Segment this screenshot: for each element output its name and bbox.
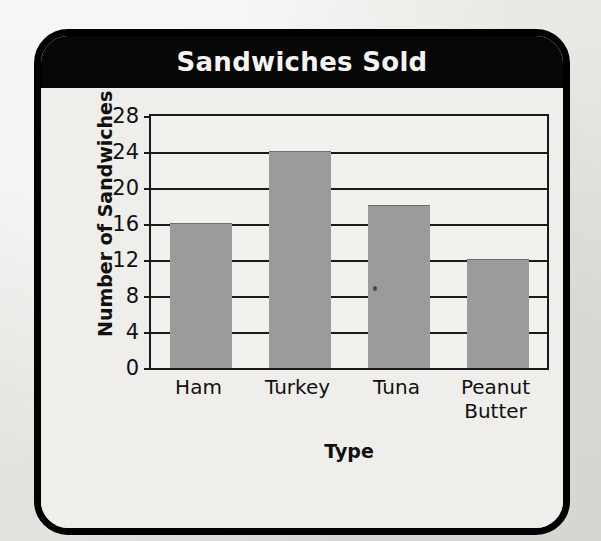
bar	[368, 205, 430, 368]
x-axis-label-line: Ham	[149, 376, 248, 400]
x-axis-label: Tuna	[347, 376, 446, 400]
y-tick-mark	[144, 260, 151, 262]
bar	[467, 259, 529, 368]
x-axis-label: Turkey	[248, 376, 347, 400]
chart-card: Sandwiches Sold Number of Sandwiches 048…	[34, 29, 570, 535]
bars-layer	[151, 116, 547, 368]
y-tick-label: 8	[126, 284, 139, 308]
x-axis-label-line: Peanut	[446, 376, 545, 400]
y-tick-mark	[144, 116, 151, 118]
bar	[170, 223, 232, 368]
x-axis-category-labels: HamTurkeyTunaPeanutButter	[149, 376, 549, 434]
print-speck	[373, 286, 377, 291]
x-axis-label: PeanutButter	[446, 376, 545, 423]
y-tick-mark	[144, 224, 151, 226]
y-tick-mark	[144, 368, 151, 370]
y-tick-label: 4	[126, 320, 139, 344]
x-axis-title: Type	[149, 440, 549, 462]
y-tick-mark	[144, 296, 151, 298]
x-axis-label-line: Turkey	[248, 376, 347, 400]
bar	[269, 151, 331, 368]
y-tick-label: 0	[126, 356, 139, 380]
y-tick-label: 16	[112, 212, 139, 236]
x-axis-label-line: Tuna	[347, 376, 446, 400]
y-tick-mark	[144, 152, 151, 154]
page-title: Sandwiches Sold	[176, 47, 427, 77]
y-tick-label: 20	[112, 176, 139, 200]
y-tick-label: 28	[112, 104, 139, 128]
x-axis-label: Ham	[149, 376, 248, 400]
chart-title-bar: Sandwiches Sold	[41, 36, 563, 88]
plot-area: 0481216202428	[149, 114, 549, 370]
chart-body: Number of Sandwiches 0481216202428 HamTu…	[41, 88, 563, 528]
y-tick-mark	[144, 188, 151, 190]
y-tick-mark	[144, 332, 151, 334]
y-tick-label: 12	[112, 248, 139, 272]
x-axis-label-line: Butter	[446, 400, 545, 424]
y-tick-label: 24	[112, 140, 139, 164]
